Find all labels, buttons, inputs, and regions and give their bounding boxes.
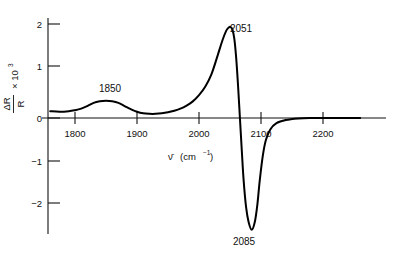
y-tick-label: 0 [37, 113, 42, 124]
chart-svg: 1800 1900 2000 2100 2200 2 1 0 −1 −2 ΔR … [0, 0, 394, 265]
y-axis-title: ΔR R × 10 3 [1, 63, 26, 113]
y-tick-label: −2 [31, 198, 42, 209]
reflectance-spectrum-figure: 1800 1900 2000 2100 2200 2 1 0 −1 −2 ΔR … [0, 0, 394, 265]
y-axis-numerator: ΔR [1, 97, 12, 110]
y-axis-exponent: 3 [7, 63, 14, 67]
y-axis-multiplier: × 10 [9, 70, 20, 89]
x-tick-label: 1800 [64, 128, 85, 139]
peak-label-2051: 2051 [230, 23, 253, 34]
x-axis-title: ν̄ (cm −1 ) [168, 149, 213, 162]
x-axis-units: (cm [180, 151, 196, 162]
x-axis-tick-labels: 1800 1900 2000 2100 2200 [64, 128, 333, 139]
peak-label-2085: 2085 [233, 236, 256, 247]
y-tick-label: 1 [37, 61, 42, 72]
y-axis-tick-labels: 2 1 0 −1 −2 [31, 19, 42, 209]
x-tick-label: 2200 [312, 128, 333, 139]
y-axis-ticks [48, 24, 60, 203]
x-axis-symbol: ν̄ [168, 151, 175, 162]
y-axis-denominator: R [15, 100, 26, 107]
peak-label-1850: 1850 [99, 83, 122, 94]
y-tick-label: −1 [31, 156, 42, 167]
x-axis-units-close: ) [210, 151, 213, 162]
x-tick-label: 2000 [188, 128, 209, 139]
x-tick-label: 1900 [126, 128, 147, 139]
y-tick-label: 2 [37, 19, 42, 30]
